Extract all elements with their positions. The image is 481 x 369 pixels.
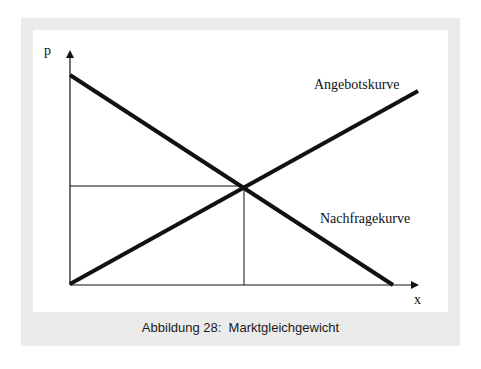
demand-curve-label: Nachfragekurve — [320, 211, 410, 226]
supply-demand-chart: p x Angebotskurve Nachfragekurve — [0, 0, 481, 369]
figure-caption: Abbildung 28: Marktgleichgewicht — [21, 320, 460, 335]
y-axis-label: p — [44, 43, 51, 58]
x-axis-label: x — [414, 292, 421, 307]
demand-curve — [70, 75, 393, 285]
supply-curve-label: Angebotskurve — [314, 77, 400, 92]
